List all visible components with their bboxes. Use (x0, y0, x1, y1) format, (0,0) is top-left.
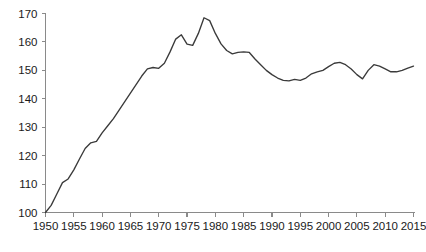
y-tick-label: 120 (18, 150, 37, 162)
y-tick-label: 170 (18, 8, 37, 20)
x-tick-label: 1980 (203, 220, 229, 232)
chart-canvas: 100110120130140150160170 195019551960196… (0, 0, 426, 252)
y-axis: 100110120130140150160170 (18, 8, 45, 219)
x-tick-label: 2005 (344, 220, 370, 232)
x-tick-label: 1960 (89, 220, 115, 232)
x-tick-label: 1950 (33, 220, 59, 232)
y-tick-label: 110 (19, 178, 37, 190)
x-tick-label: 2010 (372, 220, 398, 232)
data-line-index (46, 18, 414, 213)
x-tick-label: 1965 (118, 220, 144, 232)
line-chart: 100110120130140150160170 195019551960196… (0, 0, 426, 252)
y-tick-label: 140 (18, 93, 37, 105)
data-series-group (46, 18, 414, 213)
x-tick-label: 1985 (231, 220, 257, 232)
x-tick-label: 1955 (61, 220, 87, 232)
y-tick-label: 100 (18, 207, 37, 219)
x-tick-label: 1990 (259, 220, 285, 232)
y-tick-label: 150 (18, 64, 37, 76)
x-tick-label: 1995 (287, 220, 313, 232)
y-tick-label: 130 (18, 121, 37, 133)
x-axis: 1950195519601965197019751980198519901995… (33, 213, 426, 232)
x-tick-label: 2000 (316, 220, 342, 232)
x-tick-label: 1975 (174, 220, 200, 232)
y-tick-label: 160 (18, 36, 37, 48)
x-tick-label: 2015 (401, 220, 426, 232)
x-tick-label: 1970 (146, 220, 172, 232)
